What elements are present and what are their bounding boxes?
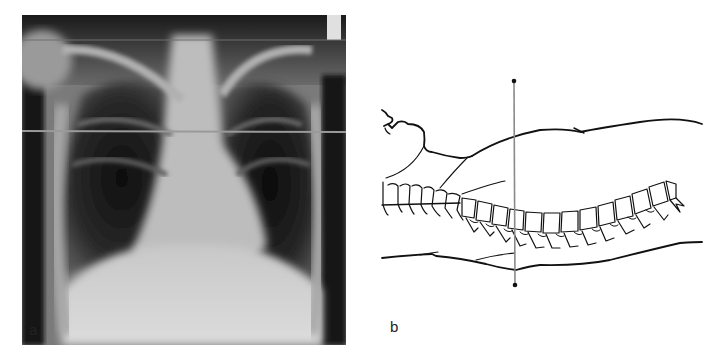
chest-xray-panel: [22, 15, 346, 345]
horizontal-reference-line: [22, 131, 346, 132]
panel-a-label: a: [29, 321, 37, 338]
vertical-reference-line: [514, 81, 515, 285]
reference-line-bottom-dot: [513, 283, 518, 288]
spine-drawing-panel: [360, 0, 718, 363]
chest-xray-image: [22, 15, 346, 345]
reference-line-top-dot: [512, 79, 517, 84]
panel-b-label: b: [390, 318, 398, 335]
supine-spine-drawing: [360, 0, 718, 363]
